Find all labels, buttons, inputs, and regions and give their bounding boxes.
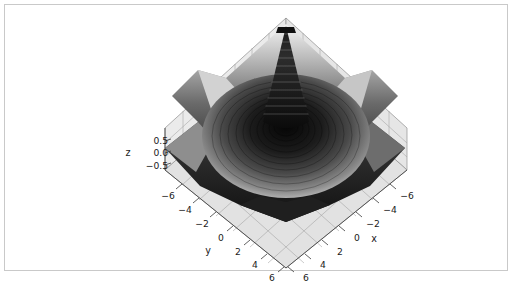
x-tick-label-0: −6: [400, 190, 414, 201]
z-axis-label: z: [125, 147, 130, 158]
y-tick-label-5: 4: [252, 259, 258, 270]
x-axis-label: x: [371, 233, 377, 244]
figure-canvas: 0.5 0.0 −0.5 z −6 −4 −2 0 2 4 6 y −6 −4 …: [0, 0, 514, 284]
x-tick-label-5: 4: [320, 259, 326, 270]
z-tick-label-2: −0.5: [146, 160, 168, 171]
y-axis-label: y: [205, 245, 211, 256]
y-tick-label-1: −4: [178, 204, 192, 215]
y-tick-label-2: −2: [195, 218, 209, 229]
y-tick-label-4: 2: [235, 246, 241, 257]
x-tick-label-6: 6: [303, 272, 309, 283]
y-tick-label-0: −6: [161, 190, 175, 201]
x-tick-label-3: 0: [354, 232, 360, 243]
z-tick-label-0: 0.5: [153, 135, 168, 146]
x-tick-label-4: 2: [337, 246, 343, 257]
y-tick-label-3: 0: [218, 232, 224, 243]
x-tick-label-1: −4: [383, 204, 397, 215]
x-tick-label-2: −2: [366, 218, 380, 229]
z-tick-label-1: 0.0: [153, 147, 168, 158]
y-tick-label-6: 6: [269, 272, 275, 283]
peak-apex: [276, 27, 296, 33]
z-axis-tick-labels: 0.5 0.0 −0.5: [146, 135, 168, 171]
surface-plot-3d: 0.5 0.0 −0.5 z −6 −4 −2 0 2 4 6 y −6 −4 …: [0, 0, 514, 284]
